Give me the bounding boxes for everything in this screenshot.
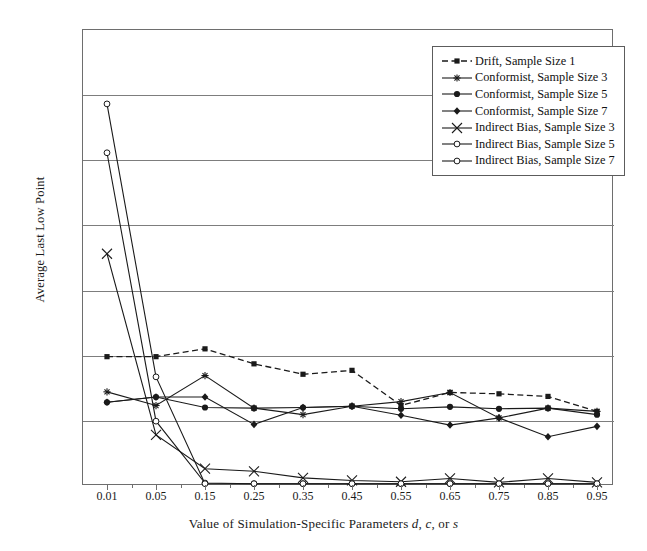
x-axis-minor-tick: [328, 485, 329, 488]
legend-item-1[interactable]: Drift, Sample Size 1: [440, 53, 615, 70]
x-axis-minor-tick: [132, 485, 133, 488]
legend-label: Drift, Sample Size 1: [474, 54, 575, 69]
legend-label: Indirect Bias, Sample Size 3: [474, 120, 615, 135]
x-axis-tick-mark: [107, 485, 108, 490]
legend-marker-filled-square-icon: [440, 54, 474, 68]
x-axis-tick-mark: [499, 485, 500, 490]
legend-label: Indirect Bias, Sample Size 5: [474, 137, 615, 152]
legend-item-4[interactable]: Conformist, Sample Size 7: [440, 103, 615, 120]
x-axis-minor-tick: [230, 485, 231, 488]
x-axis-minor-tick: [377, 485, 378, 488]
series-4: [104, 393, 601, 440]
x-axis-minor-tick: [524, 485, 525, 488]
series-6: [104, 150, 600, 487]
legend-marker-filled-circle-icon: [440, 87, 474, 101]
legend-label: Conformist, Sample Size 5: [474, 87, 608, 102]
legend-label: Conformist, Sample Size 3: [474, 70, 608, 85]
legend-item-6[interactable]: Indirect Bias, Sample Size 5: [440, 136, 615, 153]
legend-marker-asterisk-icon: [440, 71, 474, 85]
x-axis-tick-mark: [352, 485, 353, 490]
legend-marker-cross-x-icon: [440, 121, 474, 135]
x-axis-tick-mark: [303, 485, 304, 490]
legend-item-2[interactable]: Conformist, Sample Size 3: [440, 70, 615, 87]
legend-marker-open-circle-icon: [440, 137, 474, 151]
x-axis-tick-mark: [450, 485, 451, 490]
chart-legend: Drift, Sample Size 1Conformist, Sample S…: [432, 46, 625, 176]
x-axis-tick-mark: [156, 485, 157, 490]
legend-marker-open-circle-icon: [440, 154, 474, 168]
x-axis-tick-mark: [205, 485, 206, 490]
x-axis-tick-mark: [254, 485, 255, 490]
legend-label: Indirect Bias, Sample Size 7: [474, 153, 615, 168]
legend-label: Conformist, Sample Size 7: [474, 104, 608, 119]
x-axis-tick-mark: [597, 485, 598, 490]
x-axis-minor-tick: [279, 485, 280, 488]
legend-item-7[interactable]: Indirect Bias, Sample Size 7: [440, 153, 615, 170]
x-axis-tick-mark: [401, 485, 402, 490]
legend-marker-filled-diamond-icon: [440, 104, 474, 118]
x-axis-tick-label: 0.95: [567, 489, 627, 504]
x-axis-minor-tick: [573, 485, 574, 488]
x-axis-minor-tick: [475, 485, 476, 488]
legend-item-5[interactable]: Indirect Bias, Sample Size 3: [440, 119, 615, 136]
x-axis-minor-tick: [426, 485, 427, 488]
x-axis-tick-mark: [548, 485, 549, 490]
legend-item-3[interactable]: Conformist, Sample Size 5: [440, 86, 615, 103]
chart-figure: Average Last Low Point Value of Simulati…: [0, 0, 647, 551]
x-axis-minor-tick: [181, 485, 182, 488]
